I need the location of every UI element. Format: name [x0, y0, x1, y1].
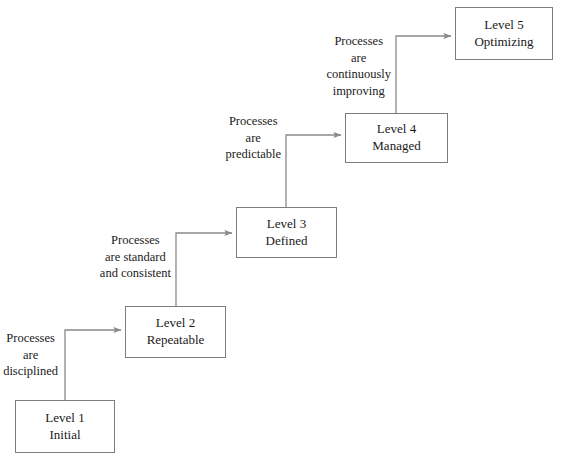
node-level-2-line1: Level 2 — [156, 315, 195, 332]
node-level-1[interactable]: Level 1 Initial — [15, 400, 115, 453]
edge-label-standard-line3: and consistent — [100, 265, 171, 282]
edge-label-continuously-improving: Processes are continuously improving — [326, 33, 391, 99]
node-level-3-line2: Defined — [266, 233, 308, 250]
connector-4-to-5 — [396, 36, 451, 113]
edge-label-improving-line2: are — [326, 50, 391, 67]
edge-label-predictable: Processes are predictable — [225, 113, 281, 163]
connector-1-to-2 — [65, 330, 121, 400]
edge-label-standard-line1: Processes — [100, 232, 171, 249]
edge-label-predictable-line3: predictable — [225, 146, 281, 163]
node-level-5-line1: Level 5 — [484, 17, 523, 34]
node-level-2[interactable]: Level 2 Repeatable — [125, 306, 226, 358]
node-level-3-line1: Level 3 — [267, 216, 306, 233]
connector-3-to-4 — [286, 135, 341, 207]
edge-label-standard-line2: are standard — [100, 249, 171, 266]
edge-label-standard-consistent: Processes are standard and consistent — [100, 232, 171, 282]
edge-label-disciplined-line2: are — [3, 347, 58, 364]
node-level-1-line1: Level 1 — [45, 410, 84, 427]
connector-2-to-3 — [176, 233, 232, 306]
edge-label-improving-line4: improving — [326, 83, 391, 100]
node-level-1-line2: Initial — [49, 427, 80, 444]
node-level-5[interactable]: Level 5 Optimizing — [455, 7, 553, 60]
node-level-4[interactable]: Level 4 Managed — [345, 113, 448, 163]
node-level-2-line2: Repeatable — [147, 332, 205, 349]
node-level-4-line1: Level 4 — [377, 121, 416, 138]
edge-label-disciplined: Processes are disciplined — [3, 330, 58, 380]
edge-label-disciplined-line3: disciplined — [3, 363, 58, 380]
edge-label-improving-line1: Processes — [326, 33, 391, 50]
node-level-5-line2: Optimizing — [474, 34, 533, 51]
node-level-4-line2: Managed — [372, 138, 420, 155]
node-level-3[interactable]: Level 3 Defined — [236, 207, 337, 258]
edge-label-predictable-line1: Processes — [225, 113, 281, 130]
edge-label-improving-line3: continuously — [326, 66, 391, 83]
edge-label-predictable-line2: are — [225, 130, 281, 147]
edge-label-disciplined-line1: Processes — [3, 330, 58, 347]
maturity-model-diagram: Level 1 Initial Level 2 Repeatable Level… — [0, 0, 571, 467]
